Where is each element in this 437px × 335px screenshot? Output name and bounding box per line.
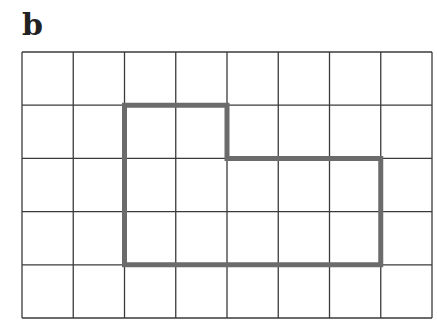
grid-lines	[22, 52, 432, 318]
shape-outline	[125, 105, 381, 265]
grid-diagram	[0, 0, 437, 335]
